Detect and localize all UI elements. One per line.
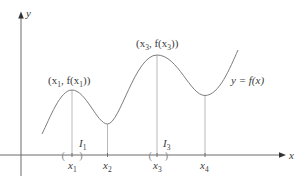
interval-I3-open-bracket: (	[149, 149, 153, 162]
interval-I1-open-bracket: (	[62, 149, 66, 162]
y-axis-label: y	[25, 7, 31, 19]
function-curve	[42, 50, 238, 134]
tick-label-x3: x3	[152, 159, 162, 174]
x-axis-label: x	[288, 149, 294, 161]
tick-label-x2: x2	[102, 159, 112, 174]
function-graph-diagram: x y (x1, f(x1)) (x3, f(x3)) y = f(x) I1 …	[0, 0, 305, 182]
tick-label-x1: x1	[67, 159, 77, 174]
point-label-x3: (x3, f(x3))	[136, 37, 179, 52]
interval-I3-close-bracket: )	[165, 149, 169, 162]
x-axis-arrow-icon	[279, 152, 286, 158]
curve-label: y = f(x)	[230, 74, 264, 87]
point-label-x1: (x1, f(x1))	[48, 74, 91, 89]
tick-label-x4: x4	[199, 159, 209, 174]
y-axis-arrow-icon	[18, 12, 24, 19]
interval-I1-close-bracket: )	[79, 149, 83, 162]
